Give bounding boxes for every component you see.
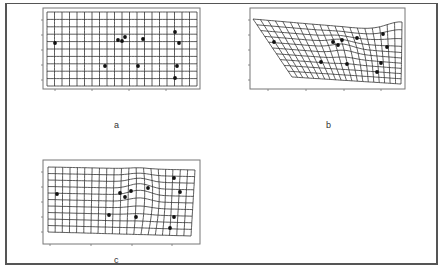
landmark-point	[55, 192, 59, 196]
deformation-grids-canvas	[0, 0, 442, 273]
landmark-point	[379, 61, 383, 65]
grid-line-vertical	[134, 168, 137, 235]
landmark-point	[134, 215, 138, 219]
landmark-point	[319, 60, 323, 64]
landmark-point	[355, 36, 359, 40]
landmark-point	[136, 64, 140, 68]
landmark-point	[129, 189, 133, 193]
landmark-point	[336, 43, 340, 47]
grid-line-vertical	[335, 26, 352, 81]
landmark-point	[146, 186, 150, 190]
grid-line-vertical	[155, 169, 159, 235]
landmark-point	[120, 39, 124, 43]
landmark-point	[172, 176, 176, 180]
grid-line-vertical	[328, 25, 347, 80]
landmark-point	[178, 190, 182, 194]
landmark-point	[103, 64, 107, 68]
landmark-point	[107, 213, 111, 217]
landmark-point	[116, 38, 120, 42]
landmark-point	[118, 191, 122, 195]
landmark-point	[173, 76, 177, 80]
panel-label-c: c	[114, 255, 119, 265]
grid-line-vertical	[395, 23, 396, 84]
landmark-point	[375, 70, 379, 74]
landmark-point	[173, 30, 177, 34]
landmark-point	[177, 41, 181, 45]
landmark-point	[168, 226, 172, 230]
landmark-point	[53, 41, 57, 45]
grid-line-vertical	[120, 168, 122, 234]
landmark-point	[123, 195, 127, 199]
panel-label-a: a	[114, 120, 119, 130]
panel-label-b: b	[326, 120, 331, 130]
grid-line-vertical	[127, 168, 129, 234]
grid-line-vertical	[387, 25, 390, 84]
landmark-point	[385, 45, 389, 49]
landmark-point	[172, 215, 176, 219]
landmark-point	[381, 32, 385, 36]
grid-line-horizontal	[253, 19, 402, 28]
landmark-point	[331, 40, 335, 44]
landmark-point	[123, 35, 127, 39]
landmark-point	[345, 62, 349, 66]
landmark-point	[175, 64, 179, 68]
landmark-point	[272, 40, 276, 44]
grid-line-vertical	[148, 169, 153, 235]
landmark-point	[141, 37, 145, 41]
landmark-point	[340, 38, 344, 42]
grid-line-vertical	[401, 22, 402, 84]
